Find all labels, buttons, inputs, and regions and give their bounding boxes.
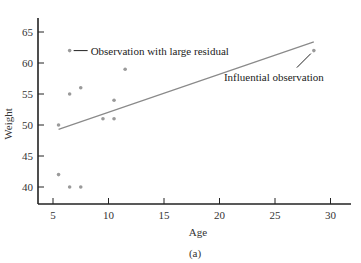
scatter-chart: 51015202530404550556065 Observation with… <box>0 0 361 263</box>
x-tick-label: 25 <box>270 209 282 221</box>
data-point <box>312 49 316 53</box>
y-tick-label: 60 <box>22 57 34 69</box>
data-point <box>79 185 83 189</box>
data-point <box>112 98 116 102</box>
x-axis-title: Age <box>189 226 207 238</box>
x-tick-label: 15 <box>159 209 171 221</box>
figure-caption: (a) <box>189 247 202 260</box>
y-tick-label: 65 <box>22 26 34 38</box>
x-tick-label: 10 <box>103 209 115 221</box>
x-tick-label: 20 <box>214 209 226 221</box>
data-point <box>57 173 61 177</box>
data-point <box>57 123 61 127</box>
data-point <box>123 67 127 71</box>
y-tick-label: 40 <box>22 181 34 193</box>
data-point <box>112 117 116 121</box>
x-tick-label: 5 <box>50 209 56 221</box>
data-point <box>79 86 83 90</box>
annotations: Observation with large residualInfluenti… <box>74 45 325 83</box>
y-tick-label: 55 <box>22 88 34 100</box>
data-point <box>101 117 105 121</box>
annotation-large-residual: Observation with large residual <box>91 45 229 57</box>
y-axis-title: Weight <box>2 108 14 140</box>
annotation-influential: Influential observation <box>224 71 324 83</box>
data-point <box>68 49 72 53</box>
data-point <box>68 185 72 189</box>
y-tick-label: 50 <box>22 119 34 131</box>
y-tick-label: 45 <box>22 150 34 162</box>
x-tick-label: 30 <box>325 209 337 221</box>
data-point <box>68 92 72 96</box>
annotation-leader-influential <box>297 54 311 68</box>
